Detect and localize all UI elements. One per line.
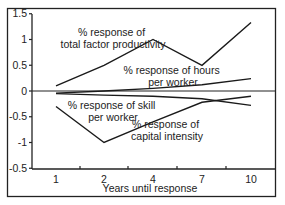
y-tick-label: 1 bbox=[21, 33, 27, 45]
annotation-capital: % response of capital intensity bbox=[131, 118, 204, 142]
y-ticks: 1.510.50-0.5-1-0.5 bbox=[9, 7, 32, 174]
x-tick-label: 1 bbox=[53, 173, 59, 185]
annotation-tfp: % response of total factor productivity bbox=[60, 26, 166, 50]
y-tick-label: 0.5 bbox=[12, 59, 27, 71]
y-tick-label: -1 bbox=[18, 136, 27, 148]
x-tick-label: 10 bbox=[245, 173, 257, 185]
x-tick-label: 7 bbox=[199, 173, 205, 185]
y-tick-label: 1.5 bbox=[12, 7, 27, 19]
x-axis-label: Years until response bbox=[103, 182, 198, 194]
line-chart: 1.510.50-0.5-1-0.5 124710 % response of … bbox=[0, 0, 285, 205]
y-tick-label: -0.5 bbox=[9, 110, 27, 122]
y-tick-label: 0 bbox=[21, 85, 27, 97]
y-tick-label: -0.5 bbox=[9, 162, 27, 174]
